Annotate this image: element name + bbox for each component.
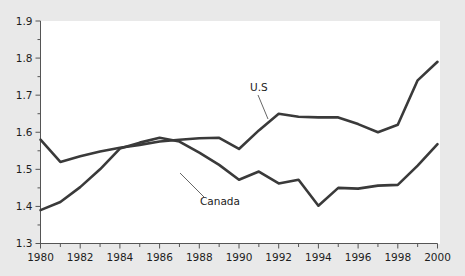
x-tick-label: 1988	[186, 251, 213, 263]
x-tick-label: 1998	[384, 251, 411, 263]
x-tick-label: 2000	[424, 251, 451, 263]
x-axis-tick-labels: 1980198219841986198819901992199419961998…	[27, 251, 451, 263]
y-tick-label: 1.9	[16, 15, 33, 27]
x-tick-label: 1994	[305, 251, 332, 263]
x-tick-label: 1990	[226, 251, 253, 263]
y-tick-label: 1.5	[16, 163, 33, 175]
x-tick-label: 1984	[107, 251, 134, 263]
y-tick-label: 1.4	[16, 200, 33, 212]
x-tick-label: 1980	[27, 251, 54, 263]
x-tick-label: 1996	[345, 251, 372, 263]
y-tick-label: 1.8	[16, 52, 33, 64]
line-chart: 1.31.41.51.61.71.81.9 198019821984198619…	[0, 0, 465, 276]
x-tick-label: 1982	[67, 251, 94, 263]
x-tick-label: 1992	[265, 251, 292, 263]
x-tick-label: 1986	[146, 251, 173, 263]
series-label-canada: Canada	[200, 195, 240, 207]
series-label-u-s: U.S	[250, 81, 268, 93]
y-tick-label: 1.3	[16, 237, 33, 249]
y-tick-label: 1.7	[16, 89, 33, 101]
chart-container: 1.31.41.51.61.71.81.9 198019821984198619…	[0, 0, 465, 276]
y-tick-label: 1.6	[16, 126, 33, 138]
